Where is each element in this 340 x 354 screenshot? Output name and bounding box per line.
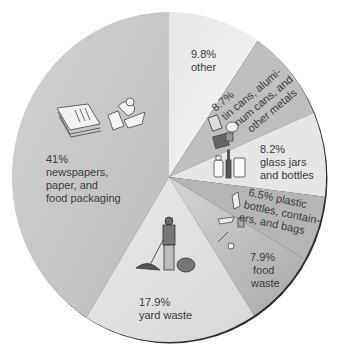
- label-paper-line3: food packaging: [46, 192, 121, 205]
- label-food-line2: waste: [251, 277, 280, 290]
- label-glass-line1: glass jars: [260, 156, 314, 169]
- label-paper-line2: paper, and: [46, 179, 121, 192]
- label-glass: 8.2% glass jars and bottles: [260, 143, 314, 182]
- label-paper: 41% newspapers, paper, and food packagin…: [46, 153, 121, 205]
- label-glass-line2: and bottles: [260, 169, 314, 182]
- label-paper-pct: 41%: [46, 153, 121, 166]
- label-food: 7.9% food waste: [250, 251, 280, 290]
- label-yard-line1: yard waste: [139, 309, 192, 322]
- label-other-pct: 9.8%: [191, 48, 216, 61]
- label-paper-line1: newspapers,: [46, 166, 121, 179]
- label-yard-pct: 17.9%: [139, 296, 192, 309]
- label-food-pct: 7.9%: [250, 251, 280, 264]
- label-other: 9.8% other: [191, 48, 216, 74]
- label-food-line1: food: [253, 264, 280, 277]
- label-glass-pct: 8.2%: [260, 143, 314, 156]
- label-yard: 17.9% yard waste: [139, 296, 192, 322]
- label-other-text: other: [191, 61, 216, 74]
